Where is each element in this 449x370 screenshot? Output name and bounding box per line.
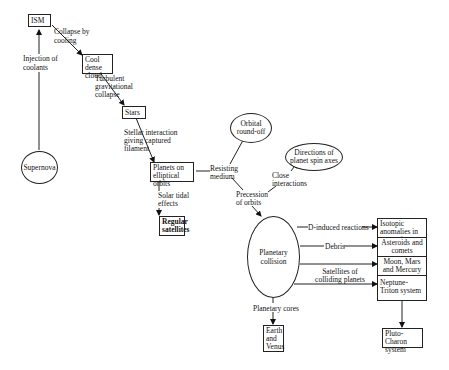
- node-asteroids-comets: Asteroids and comets: [377, 237, 427, 257]
- node-stars: Stars: [122, 106, 146, 119]
- node-stars-label: Stars: [125, 108, 140, 117]
- node-earth-venus: Earth and Venus: [263, 325, 284, 352]
- node-planetary-collision-label: Planetary collision: [248, 248, 299, 266]
- node-ism: ISM: [28, 14, 51, 27]
- node-planetary-collision: Planetary collision: [247, 216, 300, 298]
- edge-label-injection: Injection of coolants: [23, 54, 63, 72]
- node-neptune-triton: Neptune-Triton system: [377, 275, 427, 301]
- node-ism-label: ISM: [31, 16, 44, 25]
- node-moon-mars-mercury: Moon, Mars and Mercury: [377, 256, 427, 276]
- edge-label-satellites-colliding: Satellites of colliding planets: [315, 268, 365, 284]
- edge-label-precession: Precession of orbits: [236, 191, 270, 207]
- node-moon-mars-mercury-label: Moon, Mars and Mercury: [383, 257, 422, 274]
- node-regular-satellites: Regular satellites: [159, 216, 185, 236]
- node-asteroids-comets-label: Asteroids and comets: [381, 238, 422, 255]
- edge-label-resisting: Resisting medium: [210, 165, 242, 181]
- edge-label-turbulent: Turbulent gravitational collapse: [95, 75, 143, 99]
- edge-label-d-induced: D-induced reactions: [308, 223, 369, 232]
- edge-label-close: Close interactions: [272, 172, 308, 188]
- node-spin-axes-label: Directions of planet spin axes: [286, 149, 342, 165]
- edge-label-stellar: Stellar interaction giving captured fila…: [124, 129, 179, 153]
- node-neptune-triton-label: Neptune-Triton system: [380, 278, 421, 295]
- edge-label-solar-tidal: Solar tidal effects: [158, 192, 190, 208]
- node-pluto-charon: Pluto-Charon system: [382, 328, 423, 348]
- node-spin-axes: Directions of planet spin axes: [285, 143, 343, 171]
- edge-label-debris: Debris: [325, 242, 345, 251]
- connector-lines: [0, 0, 449, 370]
- node-cool-dense-cloud: Cool dense cloud: [82, 54, 113, 74]
- node-planets-elliptical: Planets on elliptical orbits: [150, 162, 194, 182]
- node-earth-venus-label: Earth and Venus: [266, 326, 284, 351]
- node-supernova: Supernova: [21, 151, 58, 184]
- edge-label-planetary-cores: Planetary cores: [253, 304, 299, 313]
- node-isotopic-anomalies: Isotopic anomalies in meteorites: [377, 218, 427, 238]
- node-orbital-roundoff-label: Orbital round-off: [231, 120, 271, 136]
- node-regular-satellites-label: Regular satellites: [162, 217, 190, 234]
- node-orbital-roundoff: Orbital round-off: [230, 113, 272, 143]
- diagram-canvas: ISM Supernova Cool dense cloud Stars Pla…: [0, 0, 449, 370]
- node-supernova-label: Supernova: [23, 163, 55, 172]
- node-pluto-charon-label: Pluto-Charon system: [385, 329, 407, 354]
- edge-label-collapse-cooling: Collapse by cooling: [54, 27, 96, 45]
